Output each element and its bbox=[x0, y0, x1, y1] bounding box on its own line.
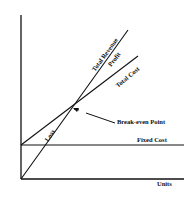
loss-label: Loss bbox=[43, 128, 56, 143]
break-even-chart: Total Revenue Profit Total Cost Loss Bre… bbox=[0, 0, 194, 199]
total-cost-label: Total Cost bbox=[114, 65, 141, 89]
fixed-cost-label: Fixed Cost bbox=[137, 136, 168, 143]
total-cost-line bbox=[21, 56, 138, 145]
break-even-arrow bbox=[74, 109, 115, 123]
units-label: Units bbox=[157, 180, 172, 187]
break-even-label: Break-even Point bbox=[117, 118, 166, 125]
